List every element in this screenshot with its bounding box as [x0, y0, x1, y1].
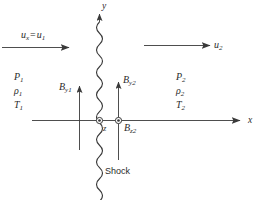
downstream-velocity-label: u2	[214, 40, 223, 52]
upstream-pressure-subscript: 1	[20, 76, 24, 84]
upstream-temperature-subscript: 1	[20, 104, 24, 112]
circled-dot-origin-icon	[96, 117, 102, 123]
shock-front-wave	[97, 22, 103, 200]
magnetic-field-y1-subscript: y1	[65, 86, 72, 94]
x-axis-label: x	[248, 116, 252, 126]
magnetic-field-y2-label: By2	[123, 75, 136, 87]
downstream-pressure-subscript: 2	[182, 76, 186, 84]
upstream-velocity-subscript-1: 1	[42, 34, 46, 42]
magnetic-field-y1-label: By1	[59, 82, 72, 94]
mhd-shock-diagram: y x z ux=u1 u2 P1 ρ1 T1 P2 ρ2 T2 By1 By2…	[0, 0, 262, 200]
z-axis-label: z	[103, 124, 106, 133]
downstream-density-subscript: 2	[181, 90, 185, 98]
downstream-pressure-label: P2	[176, 72, 186, 84]
upstream-density-subscript: 1	[19, 90, 23, 98]
downstream-temperature-subscript: 2	[182, 104, 186, 112]
upstream-temperature-label: T1	[14, 100, 23, 112]
upstream-pressure-label: P1	[14, 72, 24, 84]
equals-sign: =	[29, 29, 37, 40]
y-axis-label: y	[102, 2, 106, 12]
upstream-density-label: ρ1	[14, 86, 22, 98]
shock-label: Shock	[105, 167, 130, 176]
upstream-velocity-label: ux=u1	[21, 30, 45, 42]
magnetic-field-z2-subscript: z2	[130, 127, 136, 135]
downstream-velocity-subscript: 2	[219, 44, 223, 52]
downstream-density-label: ρ2	[176, 86, 184, 98]
circled-dot-bz2-icon	[115, 117, 121, 123]
magnetic-field-z2-label: Bz2	[124, 123, 136, 135]
downstream-temperature-label: T2	[176, 100, 185, 112]
magnetic-field-y2-subscript: y2	[129, 79, 136, 87]
